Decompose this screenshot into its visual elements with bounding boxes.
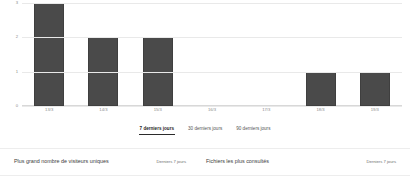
chart-bar[interactable] — [34, 3, 64, 106]
bar-slot — [131, 3, 185, 106]
bar-series — [22, 3, 402, 106]
x-axis-tick-label: 15/3 — [131, 108, 185, 112]
visitors-bar-chart: 3210 13/314/315/316/317/318/319/3 — [0, 0, 410, 122]
y-axis-tick-label: 3 — [16, 1, 18, 5]
y-gridline — [22, 72, 402, 73]
footer-section-period[interactable]: Derniers 7 jours — [366, 160, 396, 164]
bar-slot — [348, 3, 402, 106]
bar-slot — [22, 3, 76, 106]
y-axis-tick-label: 0 — [16, 104, 18, 108]
chart-plot-area: 3210 — [22, 3, 402, 106]
range-tab-2[interactable]: 90 derniers jours — [235, 125, 271, 135]
x-axis-tick-label: 19/3 — [348, 108, 402, 112]
bar-slot — [185, 3, 239, 106]
summary-footer: Plus grand nombre de visiteurs uniques D… — [0, 148, 410, 176]
x-axis-tick-label: 13/3 — [22, 108, 76, 112]
x-axis-tick-label: 18/3 — [293, 108, 347, 112]
date-range-tabs: 7 derniers jours30 derniers jours90 dern… — [0, 122, 410, 138]
y-axis-tick-label: 2 — [16, 35, 18, 39]
footer-section-title[interactable]: Fichiers les plus consultés — [206, 159, 269, 164]
bar-slot — [293, 3, 347, 106]
chart-bar[interactable] — [360, 72, 390, 106]
footer-section-top-files[interactable]: Fichiers les plus consultés Derniers 7 j… — [196, 149, 410, 175]
x-axis-tick-label: 17/3 — [239, 108, 293, 112]
range-tab-0[interactable]: 7 derniers jours — [139, 125, 175, 136]
footer-section-title[interactable]: Plus grand nombre de visiteurs uniques — [14, 159, 109, 164]
chart-bar[interactable] — [306, 72, 336, 106]
x-axis-tick-label: 16/3 — [185, 108, 239, 112]
y-gridline — [22, 3, 402, 4]
analytics-widget: 3210 13/314/315/316/317/318/319/3 7 dern… — [0, 0, 410, 180]
footer-section-unique-visitors[interactable]: Plus grand nombre de visiteurs uniques D… — [0, 149, 196, 175]
bar-slot — [76, 3, 130, 106]
x-axis-tick-label: 14/3 — [76, 108, 130, 112]
x-axis-tick-labels: 13/314/315/316/317/318/319/3 — [22, 108, 402, 112]
y-gridline — [22, 37, 402, 38]
y-axis-tick-label: 1 — [16, 70, 18, 74]
range-tab-1[interactable]: 30 derniers jours — [187, 125, 223, 135]
footer-section-period[interactable]: Derniers 7 jours — [156, 160, 186, 164]
bar-slot — [239, 3, 293, 106]
